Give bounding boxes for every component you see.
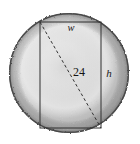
- diagonal-length-label: 24: [73, 65, 85, 79]
- geometry-figure-svg: w h 24: [0, 0, 140, 144]
- width-label: w: [67, 22, 74, 33]
- geometry-figure-container: w h 24: [0, 0, 140, 144]
- height-label: h: [106, 67, 112, 79]
